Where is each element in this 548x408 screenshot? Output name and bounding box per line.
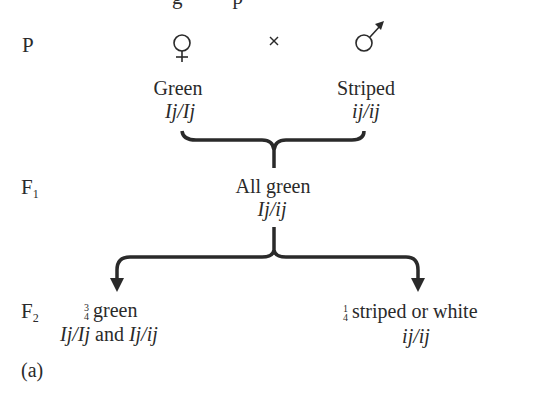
- fraction-one-quarter: 14: [343, 304, 348, 322]
- cross-symbol-icon: [270, 37, 278, 45]
- arrowhead-right-icon: [411, 278, 425, 292]
- f1-genotype: Ij/ij: [258, 199, 287, 219]
- f2-right-genotype: ij/ij: [402, 326, 430, 346]
- male-symbol-icon: [356, 25, 381, 51]
- female-symbol-icon: [174, 35, 190, 62]
- female-phenotype: Green: [154, 78, 203, 98]
- arrowhead-left-icon: [110, 278, 124, 292]
- male-arrowhead: [375, 21, 384, 30]
- panel-label: (a): [21, 360, 43, 380]
- f2-right-phenotype: 14striped or white: [343, 301, 478, 322]
- male-phenotype: Striped: [337, 78, 395, 98]
- female-genotype: Ij/Ij: [165, 101, 195, 121]
- f1-phenotype: All green: [236, 176, 311, 196]
- parent-cross-brace: [182, 131, 364, 168]
- f2-left-phenotype: 34green: [84, 300, 137, 321]
- f2-left-genotype: Ij/Ij and Ij/ij: [60, 324, 158, 344]
- fraction-three-quarters: 34: [84, 303, 89, 321]
- male-genotype: ij/ij: [352, 101, 380, 121]
- f1-to-f2-branch: [117, 227, 418, 280]
